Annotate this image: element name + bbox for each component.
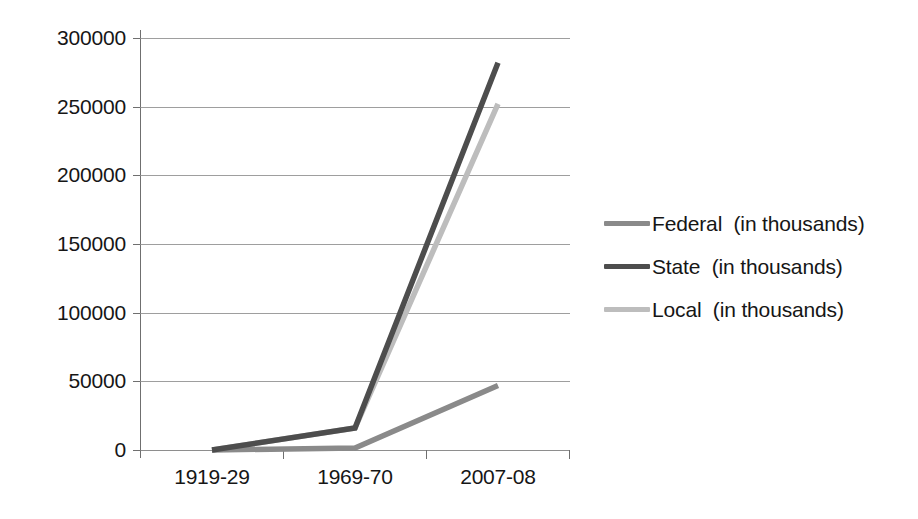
legend-item-state[interactable]: State (in thousands) (604, 245, 910, 288)
legend-swatch-local (604, 307, 650, 312)
line-chart: 300000 250000 200000 150000 100000 50000… (0, 0, 918, 519)
legend-swatch-federal (604, 221, 650, 226)
series-line-state (212, 63, 498, 450)
legend-label-state: State (in thousands) (652, 256, 843, 278)
series-line-federal (212, 385, 498, 450)
legend-swatch-state (604, 264, 650, 269)
series-line-local (212, 104, 498, 450)
legend-label-federal: Federal (in thousands) (652, 213, 865, 235)
legend-label-local: Local (in thousands) (652, 299, 844, 321)
legend-item-federal[interactable]: Federal (in thousands) (604, 202, 910, 245)
legend: Federal (in thousands) State (in thousan… (604, 202, 910, 331)
legend-item-local[interactable]: Local (in thousands) (604, 288, 910, 331)
